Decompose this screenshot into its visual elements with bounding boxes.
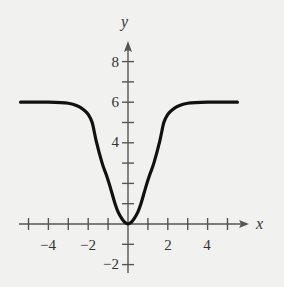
y-tick-label: 4 [112,134,120,150]
x-tick-label: 4 [203,237,211,253]
y-axis-label: y [119,13,129,31]
x-tick-label: −4 [40,237,56,253]
x-tick-label: 2 [164,237,172,253]
x-axis-label: x [255,215,263,232]
y-tick-label: 8 [112,54,120,70]
y-tick-label: −2 [103,256,119,272]
function-graph: x y −4 −2 2 4 8 6 4 −2 [0,0,284,287]
x-tick-label: −2 [80,237,96,253]
y-tick-label: 6 [112,94,120,110]
